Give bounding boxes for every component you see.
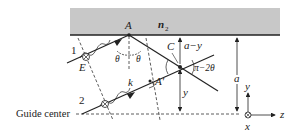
label-ray-2: 2 bbox=[79, 94, 85, 106]
label-a-minus-y: a−y bbox=[184, 39, 202, 51]
label-axis-y: y bbox=[244, 80, 250, 92]
label-E: E bbox=[78, 61, 86, 73]
label-theta-left: θ bbox=[115, 54, 120, 64]
point-A bbox=[127, 33, 131, 37]
field-marker-1-icon bbox=[83, 54, 90, 61]
label-theta-right: θ bbox=[136, 54, 141, 64]
point-C bbox=[178, 65, 182, 69]
label-A-prime: A′ bbox=[154, 75, 165, 87]
field-marker-2-icon bbox=[102, 101, 109, 108]
label-C: C bbox=[167, 40, 175, 52]
label-axis-z: z bbox=[279, 108, 285, 120]
label-y: y bbox=[182, 86, 188, 98]
label-guide-center: Guide center bbox=[16, 108, 70, 119]
label-n2-subscript: 2 bbox=[165, 25, 169, 33]
label-k: k bbox=[128, 76, 134, 88]
label-a: a bbox=[234, 72, 240, 84]
label-axis-x: x bbox=[244, 120, 250, 132]
pointer-C bbox=[172, 53, 178, 63]
label-pi-minus-2theta: π−2θ bbox=[194, 63, 215, 73]
waveguide-diagram: A n 2 θ θ A′ k E 1 2 C π−2θ a−y y a Guid… bbox=[0, 0, 299, 139]
label-ray-1: 1 bbox=[71, 44, 77, 56]
cladding-slab bbox=[70, 8, 280, 35]
point-A-prime bbox=[149, 80, 152, 83]
ray-1-arrow-icon bbox=[114, 39, 122, 46]
coordinate-axes bbox=[245, 93, 275, 118]
label-n2: n bbox=[158, 18, 164, 30]
label-A: A bbox=[124, 19, 132, 31]
angle-arc-left-C bbox=[166, 60, 168, 74]
